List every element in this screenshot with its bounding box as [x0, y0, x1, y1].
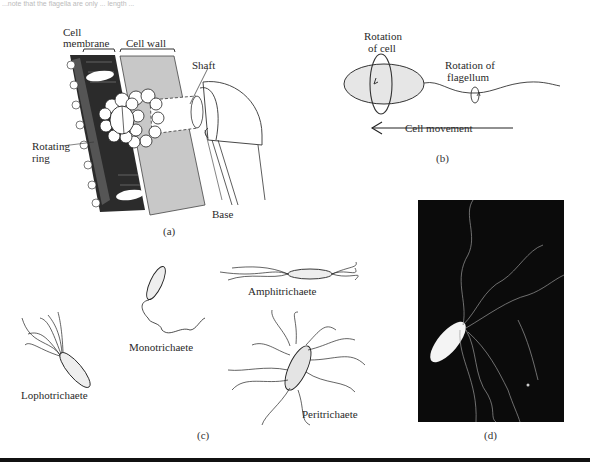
label-base: Base: [212, 208, 233, 220]
caption-b: (b): [436, 152, 449, 164]
label-lophotrichaete: Lophotrichaete: [21, 389, 88, 401]
label-peritrichaete: Peritrichaete: [302, 408, 358, 420]
caption-d: (d): [484, 429, 497, 441]
flagellar-motor-diagram: [62, 49, 265, 215]
label-amphitrichaete: Amphitrichaete: [248, 285, 316, 297]
page-bottom-rule: [0, 458, 590, 462]
label-rotating-ring-2: ring: [32, 152, 50, 164]
flagella-micrograph: [418, 200, 564, 422]
label-shaft: Shaft: [192, 59, 215, 71]
lophotrichaete-drawing: [22, 312, 95, 391]
label-cell-wall: Cell wall: [126, 37, 166, 49]
label-rotation-of-flagellum-2: flagellum: [447, 71, 489, 83]
label-cell-membrane-2: membrane: [63, 37, 109, 49]
label-rotating-ring-1: Rotating: [32, 140, 70, 152]
micrograph-photo: [418, 200, 564, 422]
monotrichaete-drawing: [142, 264, 205, 333]
label-monotrichaete: Monotrichaete: [129, 341, 193, 353]
caption-c: (c): [197, 429, 209, 441]
label-rotation-of-flagellum-1: Rotation of: [445, 59, 495, 71]
caption-a: (a): [163, 225, 175, 237]
amphitrichaete-drawing: [220, 262, 358, 280]
label-rotation-of-cell-1: Rotation: [364, 30, 402, 42]
label-rotation-of-cell-2: of cell: [368, 42, 396, 54]
label-cell-movement: Cell movement: [405, 122, 473, 134]
